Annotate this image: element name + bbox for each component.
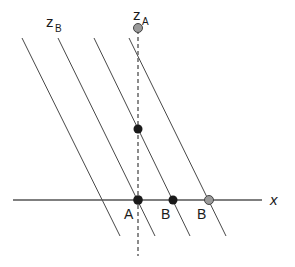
spacetime-diagram: z B z A x A B B xyxy=(0,0,295,267)
point-origin-a xyxy=(133,195,143,205)
za-label-main: z xyxy=(133,6,141,23)
diagram-canvas: z B z A x A B B xyxy=(0,0,295,267)
zb-label-sub: B xyxy=(55,23,62,34)
oblique-line-4 xyxy=(129,38,226,236)
point-label-b2: B xyxy=(197,206,206,222)
point-x-b2 xyxy=(205,196,214,205)
oblique-line-2 xyxy=(58,38,155,236)
point-x-b1 xyxy=(169,196,178,205)
oblique-line-1 xyxy=(22,38,120,236)
x-axis-label: x xyxy=(269,191,278,208)
oblique-line-3 xyxy=(94,38,190,236)
za-label-sub: A xyxy=(142,16,149,27)
point-za-mid xyxy=(134,125,143,134)
point-label-a: A xyxy=(124,206,134,222)
zb-label-main: z xyxy=(46,13,54,30)
point-label-b1: B xyxy=(161,206,170,222)
